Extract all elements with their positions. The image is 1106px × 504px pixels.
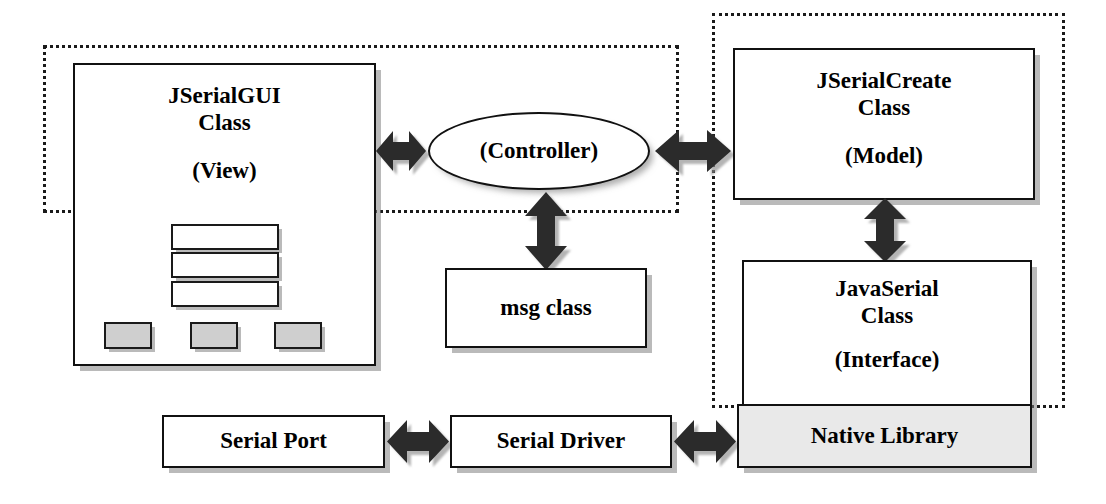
gui-button-1[interactable] [104, 322, 152, 349]
controller-to-model-arrow [655, 128, 731, 174]
native-library-box[interactable]: Native Library [737, 404, 1032, 468]
gui-button-3[interactable] [274, 322, 322, 349]
msg-class-box[interactable]: msg class [445, 268, 647, 348]
double-arrow-vertical-icon [523, 192, 569, 270]
serial-port-label: Serial Port [220, 428, 327, 455]
double-arrow-horizontal-icon [674, 418, 736, 465]
double-arrow-horizontal-icon [387, 418, 449, 465]
serialdriver-to-nativelibrary-arrow [674, 418, 736, 465]
msg-class-label: msg class [500, 295, 591, 322]
controller-ellipse[interactable]: (Controller) [428, 112, 650, 190]
controller-to-msgclass-arrow [523, 192, 569, 270]
serial-driver-box[interactable]: Serial Driver [450, 415, 672, 468]
serial-port-box[interactable]: Serial Port [162, 415, 385, 468]
serialport-to-serialdriver-arrow [387, 418, 449, 465]
gui-button-2[interactable] [190, 322, 238, 349]
javaserial-role: (Interface) [835, 347, 940, 374]
double-arrow-vertical-icon [862, 198, 908, 262]
jserialgui-role: (View) [192, 158, 256, 185]
text-field-2[interactable] [171, 252, 279, 278]
serial-driver-label: Serial Driver [497, 428, 625, 455]
javaserial-title: JavaSerial [835, 276, 939, 303]
javaserial-class-box[interactable]: JavaSerial Class (Interface) [742, 260, 1032, 406]
javaserial-class-word: Class [861, 303, 913, 330]
jserialgui-title: JSerialGUI [168, 83, 280, 110]
gui-to-controller-arrow [376, 128, 426, 174]
text-field-3[interactable] [171, 281, 279, 307]
jserialcreate-class-box[interactable]: JSerialCreate Class (Model) [733, 48, 1035, 200]
text-field-1[interactable] [171, 224, 279, 250]
diagram-canvas: JSerialGUI Class (View) (Controller) msg… [0, 0, 1106, 504]
jserialcreate-class-word: Class [858, 95, 910, 122]
model-to-interface-arrow [862, 198, 908, 262]
jserialgui-class-word: Class [198, 110, 250, 137]
controller-label: (Controller) [480, 138, 598, 164]
jserialcreate-title: JSerialCreate [817, 68, 952, 95]
double-arrow-horizontal-icon [655, 128, 731, 174]
jserialcreate-role: (Model) [845, 143, 923, 170]
double-arrow-horizontal-icon [376, 128, 426, 174]
native-library-label: Native Library [811, 423, 959, 450]
jserialgui-class-box[interactable]: JSerialGUI Class (View) [73, 63, 376, 366]
